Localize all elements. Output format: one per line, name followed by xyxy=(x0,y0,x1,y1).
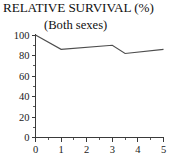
svg-text:80: 80 xyxy=(19,50,30,61)
x-axis-tick-labels: 012345 xyxy=(33,144,166,155)
svg-text:4: 4 xyxy=(135,144,141,155)
svg-text:0: 0 xyxy=(33,144,38,155)
y-axis-tick-labels: 020406080100 xyxy=(14,30,30,144)
svg-text:100: 100 xyxy=(14,30,30,41)
svg-text:60: 60 xyxy=(19,71,30,82)
svg-text:20: 20 xyxy=(19,112,30,123)
svg-text:5: 5 xyxy=(161,144,166,155)
plot-area: 020406080100 012345 xyxy=(0,0,176,159)
svg-text:2: 2 xyxy=(84,144,89,155)
svg-text:1: 1 xyxy=(58,144,63,155)
svg-text:3: 3 xyxy=(110,144,115,155)
relative-survival-chart: RELATIVE SURVIVAL (%) (Both sexes) 02040… xyxy=(0,0,176,159)
svg-text:0: 0 xyxy=(24,132,29,143)
data-line-relative-survival xyxy=(36,35,164,53)
svg-text:40: 40 xyxy=(19,91,30,102)
